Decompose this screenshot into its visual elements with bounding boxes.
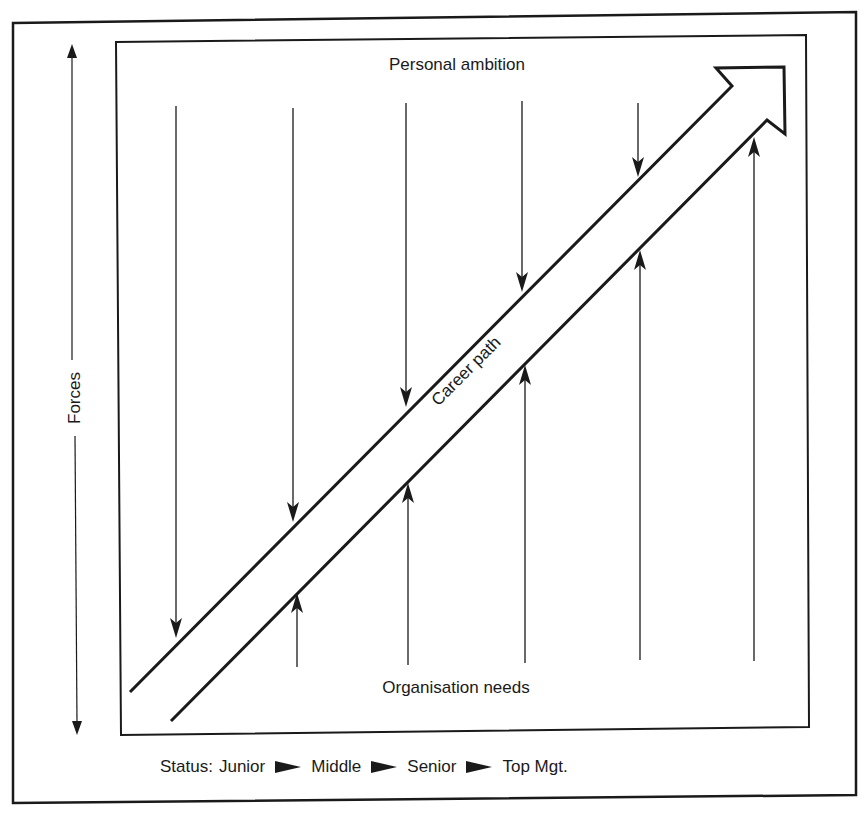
career-path-diagram: Forces Personal ambition Organisation ne… — [0, 0, 865, 816]
personal-ambition-label: Personal ambition — [389, 55, 525, 74]
org-need-force-arrow — [748, 137, 760, 661]
chevron-right-icon — [275, 761, 301, 773]
arrow-down-icon — [72, 721, 82, 735]
personal-ambition-forces — [170, 101, 644, 638]
career-path-arrow — [130, 67, 785, 721]
organisation-needs-forces — [291, 137, 760, 667]
ambition-force-arrow — [632, 103, 644, 177]
status-stage-top-mgt: Top Mgt. — [502, 757, 567, 777]
org-need-force-arrow — [402, 483, 414, 665]
status-stage-middle: Middle — [311, 757, 361, 777]
arrow-up-icon — [67, 44, 77, 58]
ambition-force-arrow — [516, 101, 528, 292]
ambition-force-arrow — [287, 108, 299, 522]
status-label: Status: — [160, 757, 213, 777]
forces-label: Forces — [65, 372, 84, 424]
organisation-needs-label: Organisation needs — [382, 678, 529, 697]
chevron-right-icon — [466, 761, 492, 773]
ambition-force-arrow — [400, 103, 412, 407]
org-need-force-arrow — [634, 250, 646, 660]
status-progression: Status: Junior Middle Senior Top Mgt. — [160, 756, 574, 778]
status-stage-senior: Senior — [407, 757, 456, 777]
chevron-right-icon — [371, 761, 397, 773]
org-need-force-arrow — [291, 593, 303, 667]
org-need-force-arrow — [519, 365, 531, 663]
ambition-force-arrow — [170, 106, 182, 638]
status-stage-junior: Junior — [219, 757, 265, 777]
